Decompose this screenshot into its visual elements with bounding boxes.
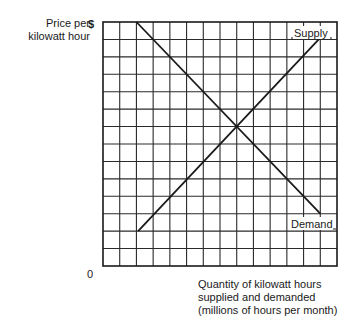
x-axis-label-line2: supplied and demanded (198, 291, 337, 304)
plot-area: Supply Demand (0, 0, 352, 323)
x-axis-label-line1: Quantity of kilowatt hours (198, 278, 337, 291)
demand-label: Demand (291, 218, 333, 230)
demand-curve (136, 22, 320, 214)
x-axis-label-line3: (millions of hours per month) (198, 304, 337, 317)
x-axis-label: Quantity of kilowatt hours supplied and … (198, 278, 337, 317)
supply-label: Supply (294, 27, 328, 39)
supply-curve (138, 31, 327, 231)
